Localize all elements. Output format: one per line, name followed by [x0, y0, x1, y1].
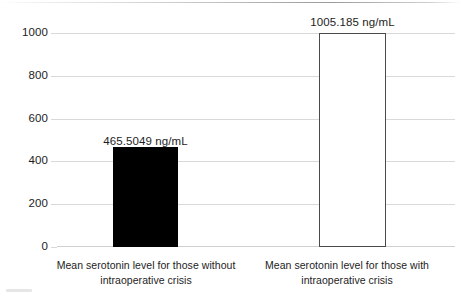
- y-tick-label-200: 200: [4, 198, 48, 210]
- bar-with-intraoperative-crisis[interactable]: [319, 33, 386, 247]
- y-tick-label-600: 600: [4, 113, 48, 125]
- bar-without-intraoperative-crisis[interactable]: [113, 147, 178, 247]
- y-tick-label-1000: 1000: [4, 27, 48, 39]
- scan-line-artifact: [0, 2, 461, 3]
- category-label-without-intraoperative-crisis: Mean serotonin level for those without i…: [46, 258, 246, 288]
- gridline-800: [57, 76, 455, 77]
- data-label-with-intraoperative-crisis: 1005.185 ng/mL: [302, 17, 403, 29]
- bar-chart-figure: 1000 800 600 400 200 0 465.5049 ng/mL 10…: [0, 0, 461, 297]
- y-tick-stub-0: [51, 247, 57, 248]
- y-tick-label-400: 400: [4, 156, 48, 168]
- data-label-without-intraoperative-crisis: 465.5049 ng/mL: [95, 136, 196, 148]
- category-label-line-2: intraoperative crisis: [46, 273, 246, 288]
- category-label-line-2: intraoperative crisis: [257, 273, 437, 288]
- scan-smudge-artifact: [6, 289, 32, 292]
- category-label-with-intraoperative-crisis: Mean serotonin level for those with intr…: [257, 258, 437, 288]
- gridline-1000: [57, 33, 455, 34]
- y-tick-label-0: 0: [4, 241, 48, 253]
- gridline-600: [57, 119, 455, 120]
- y-axis: 1000 800 600 400 200 0: [0, 33, 48, 247]
- category-label-line-1: Mean serotonin level for those with: [257, 258, 437, 273]
- category-label-line-1: Mean serotonin level for those without: [46, 258, 246, 273]
- y-tick-label-800: 800: [4, 70, 48, 82]
